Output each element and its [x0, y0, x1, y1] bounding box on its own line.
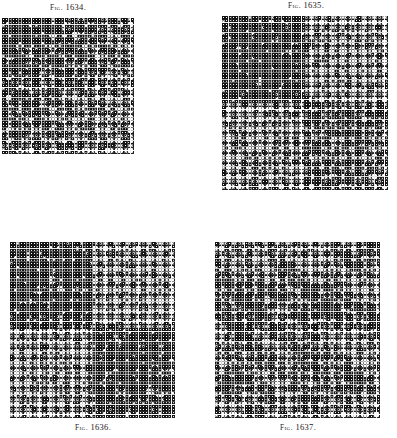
caption-prefix-1635: Fig.	[288, 2, 301, 10]
figure-caption-1636: Fig. 1636.	[10, 422, 176, 432]
figure-1635	[222, 16, 388, 190]
caption-prefix-1636: Fig.	[75, 424, 88, 432]
caption-prefix-1634: Fig.	[50, 4, 63, 12]
figure-1634	[2, 18, 134, 154]
figure-caption-1637: Fig. 1637.	[214, 422, 382, 432]
caption-number-1637: 1637.	[295, 422, 316, 432]
figure-1637	[215, 242, 380, 418]
pattern-grid-1636	[10, 242, 175, 418]
pattern-grid-1634	[2, 18, 134, 154]
caption-number-1634: 1634.	[65, 2, 86, 12]
caption-number-1635: 1635.	[303, 0, 324, 10]
pattern-grid-1635	[222, 16, 388, 190]
pattern-grid-1637	[215, 242, 380, 418]
figure-caption-1635: Fig. 1635.	[222, 0, 390, 10]
figure-caption-1634: Fig. 1634.	[0, 2, 136, 12]
caption-number-1636: 1636.	[90, 422, 111, 432]
caption-prefix-1637: Fig.	[280, 424, 293, 432]
figure-1636	[10, 242, 175, 418]
pattern-plate-page: Fig. 1634. Fig. 1635. Fig. 1636. Fig. 16…	[0, 0, 397, 438]
